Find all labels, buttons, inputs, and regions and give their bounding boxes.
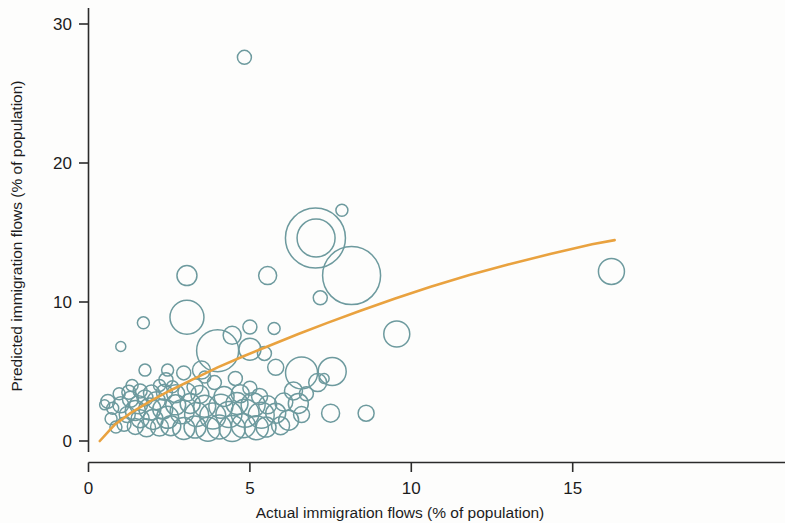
bubble-point [268,359,284,375]
x-tick-label: 5 [245,479,254,498]
bubble-point [294,407,310,423]
bubble-point [248,402,274,428]
y-tick-label: 30 [53,15,72,34]
bubble-point [177,366,191,380]
bubble-point [323,247,381,305]
bubble-point [297,219,335,257]
bubble-point [358,405,374,421]
x-tick-label: 10 [402,479,421,498]
bubble-point [139,364,151,376]
bubble-point [285,208,345,268]
bubble-point [268,322,280,334]
bubble-point [137,317,149,329]
x-tick-label: 0 [84,479,93,498]
bubble-point [384,321,410,347]
plot-svg: 0102030 051015 Predicted immigration flo… [0,0,785,523]
bubble-point [162,364,174,376]
y-axis-label: Predicted immigration flows (% of popula… [8,81,25,392]
bubble-point [243,320,257,334]
bubble-point [116,341,126,351]
bubble-point [207,376,221,390]
bubble-point [313,291,327,305]
bubble-point [336,204,348,216]
bubble-point [177,266,197,286]
bubble-point [237,50,251,64]
y-tick-label: 0 [63,432,72,451]
bubble-point [197,330,239,372]
bubble-point [322,404,340,422]
bubble-point [286,357,318,389]
x-axis-label: Actual immigration flows (% of populatio… [256,504,545,521]
bubble-chart-figure: 0102030 051015 Predicted immigration flo… [0,0,785,523]
x-axis-ticks: 051015 [84,463,582,499]
bubble-series [100,50,625,441]
bubble-point [318,358,346,386]
bubble-point [598,258,624,284]
bubble-point [259,267,277,285]
y-axis-ticks: 0102030 [53,15,88,451]
y-tick-label: 20 [53,154,72,173]
bubble-point [170,300,204,334]
y-tick-label: 10 [53,293,72,312]
bubble-point [113,388,125,400]
x-tick-label: 15 [563,479,582,498]
bubble-point [228,371,242,385]
